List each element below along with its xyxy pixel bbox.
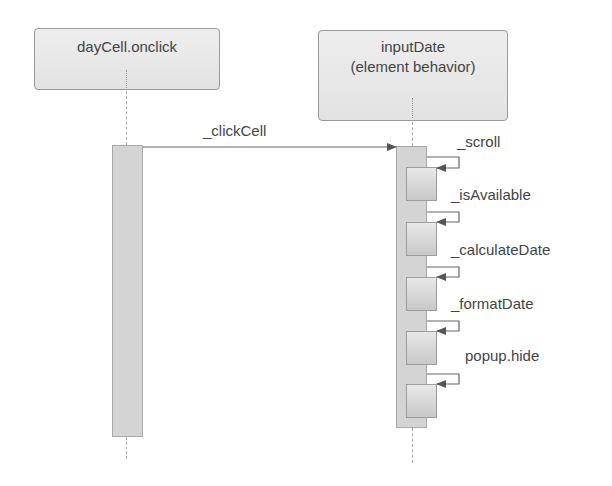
self-arrow-isavailable	[427, 212, 459, 222]
message-label-clickcell: _clickCell	[203, 122, 266, 139]
self-arrow-calculatedate	[427, 267, 459, 277]
message-label-formatdate: _formatDate	[451, 295, 534, 312]
message-label-calculatedate: _calculateDate	[451, 241, 550, 258]
self-arrow-formatdate	[427, 321, 459, 331]
message-label-popuphide: popup.hide	[465, 347, 539, 364]
message-label-scroll: _scroll	[457, 133, 500, 150]
self-arrow-popuphide	[427, 374, 459, 384]
message-label-isavailable: _isAvailable	[451, 186, 531, 203]
self-arrow-scroll	[427, 157, 459, 168]
